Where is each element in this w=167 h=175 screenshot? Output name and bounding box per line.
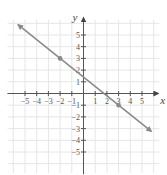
data-line bbox=[18, 25, 151, 132]
data-series bbox=[18, 25, 151, 132]
x-tick-label: −5 bbox=[21, 97, 30, 106]
marked-point bbox=[58, 56, 63, 61]
y-tick-label: 3 bbox=[76, 54, 80, 63]
y-tick-label: −5 bbox=[71, 148, 80, 157]
axes bbox=[7, 17, 158, 174]
x-tick-label: −4 bbox=[32, 97, 41, 106]
x-tick-label: 4 bbox=[128, 97, 132, 106]
x-tick-label: −2 bbox=[56, 97, 65, 106]
y-tick-label: 5 bbox=[76, 31, 80, 40]
y-tick-label: 1 bbox=[76, 78, 80, 87]
y-tick-label: −4 bbox=[71, 136, 80, 145]
y-tick-label: −2 bbox=[71, 113, 80, 122]
y-tick-label: −1 bbox=[71, 101, 80, 110]
x-tick-label: −3 bbox=[44, 97, 53, 106]
y-tick-label: 4 bbox=[76, 43, 80, 52]
x-axis-label: x bbox=[159, 94, 165, 106]
x-tick-label: 5 bbox=[140, 97, 144, 106]
coordinate-plane: −5−4−3−2−112345−5−4−3−2−112345 x y bbox=[0, 0, 167, 175]
marked-point bbox=[116, 103, 121, 108]
x-tick-label: 1 bbox=[93, 97, 97, 106]
y-tick-label: −3 bbox=[71, 125, 80, 134]
y-axis-label: y bbox=[72, 11, 78, 23]
